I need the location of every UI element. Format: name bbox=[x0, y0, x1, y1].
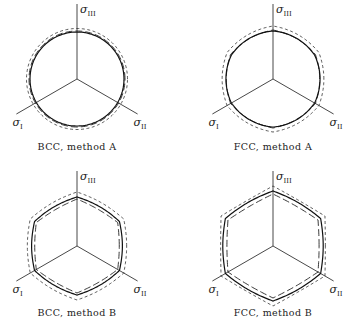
panel-caption: FCC, method B bbox=[234, 307, 312, 318]
axis-label-sigma-one: σI bbox=[12, 116, 23, 131]
axis-label-sigma-two: σII bbox=[330, 283, 343, 298]
axis-label-sigma-three: σIII bbox=[80, 170, 96, 185]
axis-sigma-one bbox=[212, 79, 273, 114]
axis-label-sigma-three: σIII bbox=[276, 170, 292, 185]
axis-sigma-one bbox=[16, 79, 77, 114]
axis-sigma-one bbox=[212, 246, 273, 281]
panel-caption: BCC, method B bbox=[38, 307, 117, 318]
axis-label-sigma-one: σI bbox=[208, 283, 219, 298]
panel-fcc-a: σIIIσIσIIFCC, method A bbox=[208, 3, 342, 152]
yield-surface-figure: σIIIσIσIIBCC, method AσIIIσIσIIFCC, meth… bbox=[0, 0, 353, 332]
panel-fcc-b: σIIIσIσIIFCC, method B bbox=[208, 170, 342, 318]
axis-sigma-two bbox=[77, 79, 138, 114]
panel-bcc-a: σIIIσIσIIBCC, method A bbox=[12, 3, 146, 152]
axis-label-sigma-two: σII bbox=[134, 283, 147, 298]
panel-caption: FCC, method A bbox=[234, 141, 312, 152]
panel-caption: BCC, method A bbox=[38, 141, 117, 152]
axis-label-sigma-two: σII bbox=[330, 116, 343, 131]
axis-label-sigma-two: σII bbox=[134, 116, 147, 131]
axis-sigma-one bbox=[16, 246, 77, 281]
axis-sigma-two bbox=[77, 246, 138, 281]
axis-sigma-two bbox=[273, 79, 334, 114]
panel-bcc-b: σIIIσIσIIBCC, method B bbox=[12, 170, 146, 318]
axis-label-sigma-three: σIII bbox=[80, 3, 96, 18]
axis-label-sigma-one: σI bbox=[12, 283, 23, 298]
axis-sigma-two bbox=[273, 246, 334, 281]
axis-label-sigma-one: σI bbox=[208, 116, 219, 131]
axis-label-sigma-three: σIII bbox=[276, 3, 292, 18]
